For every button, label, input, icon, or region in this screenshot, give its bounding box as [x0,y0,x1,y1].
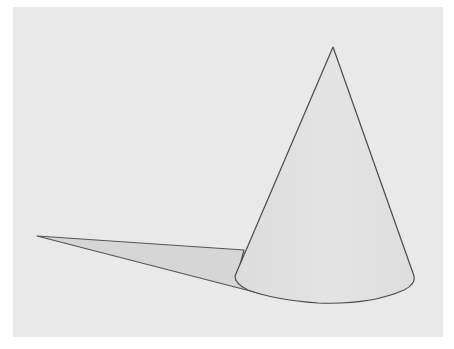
cone-body [235,47,414,303]
cast-shadow [37,236,262,294]
cone-illustration [0,0,454,349]
